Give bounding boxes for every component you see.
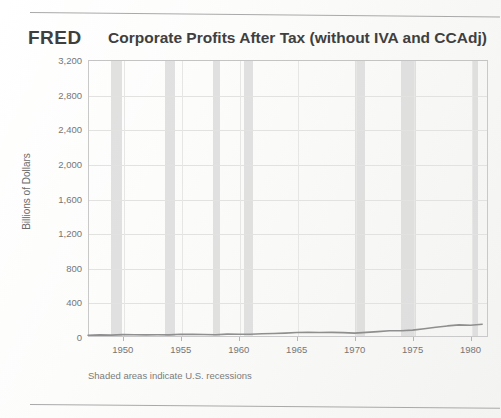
y-axis-tick-label: 800 [38,262,82,273]
x-axis-tick-label: 1955 [170,344,191,355]
x-axis-tick-mark [181,337,182,341]
x-axis-tick-mark [413,337,414,341]
y-axis-tick-label: 2,400 [38,124,82,135]
y-axis-tick-label: 0 [38,332,82,343]
x-axis-tick-mark [355,337,356,341]
y-axis-tick-label: 1,600 [38,193,82,204]
y-axis-tick-label: 400 [38,297,82,308]
x-axis-tick-mark [123,337,124,341]
x-axis-tick-label: 1950 [112,344,133,355]
x-axis-tick-label: 1975 [402,344,423,355]
x-axis-tick-label: 1980 [460,344,481,355]
x-axis-tick-mark [239,337,240,341]
x-axis-tick-mark [297,337,298,341]
y-axis-tick-label: 3,200 [38,55,82,66]
series-line-layer [88,60,488,337]
x-axis-tick-mark [471,337,472,341]
y-axis-tick-label: 2,000 [38,158,82,169]
recession-footnote: Shaded areas indicate U.S. recessions [88,370,252,381]
y-axis-tick-label: 2,800 [38,89,82,100]
x-axis-tick-label: 1970 [344,344,365,355]
x-axis-tick-label: 1965 [286,344,307,355]
x-axis-tick-label: 1960 [228,344,249,355]
y-axis-tick-label: 1,200 [38,228,82,239]
series-line-corporate-profits [88,324,482,335]
chart-area: 3,2002,8002,4002,0001,6001,2008004000195… [0,0,501,418]
